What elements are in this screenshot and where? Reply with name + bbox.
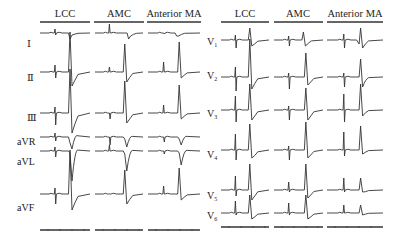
ecg-trace-V5-anterior-ma bbox=[327, 178, 383, 192]
lead-label-V1: V1 bbox=[207, 36, 217, 51]
ecg-trace-I-lcc bbox=[40, 29, 90, 39]
ecg-trace-aVL-anterior-ma bbox=[148, 150, 200, 165]
ecg-trace-II-lcc bbox=[40, 32, 90, 86]
column-header-lcc-left: LCC bbox=[40, 8, 90, 20]
ecg-trace-V6-lcc bbox=[221, 195, 269, 219]
ecg-trace-aVR-anterior-ma bbox=[148, 136, 200, 145]
lead-label-V6: V6 bbox=[207, 210, 217, 225]
ecg-trace-V1-amc bbox=[274, 32, 323, 46]
lead-label-aVL: aVL bbox=[17, 156, 35, 167]
ecg-trace-I-amc bbox=[95, 24, 143, 39]
ecg-trace-III-anterior-ma bbox=[148, 85, 200, 119]
ecg-trace-V2-anterior-ma bbox=[327, 59, 383, 87]
column-header-amc-right: AMC bbox=[273, 8, 323, 20]
lead-label-V3: V3 bbox=[207, 108, 217, 123]
ecg-figure: LCC AMC Anterior MA LCC AMC Anterior MA … bbox=[0, 0, 394, 246]
ecg-trace-aVL-lcc bbox=[40, 147, 90, 181]
lead-label-V2: V2 bbox=[207, 70, 217, 85]
ecg-trace-aVR-lcc bbox=[40, 133, 90, 149]
column-header-amc-left: AMC bbox=[94, 8, 144, 20]
ecg-trace-I-anterior-ma bbox=[148, 32, 200, 36]
lead-label-V5: V5 bbox=[207, 190, 217, 205]
column-header-anterior-ma-left: Anterior MA bbox=[146, 8, 202, 20]
ecg-trace-aVR-amc bbox=[95, 136, 143, 147]
ecg-trace-V3-lcc bbox=[221, 84, 269, 122]
ecg-trace-III-amc bbox=[95, 81, 143, 123]
lead-label-III: Ⅲ bbox=[27, 112, 37, 123]
ecg-trace-aVF-anterior-ma bbox=[148, 168, 200, 200]
ecg-trace-aVL-amc bbox=[95, 145, 143, 171]
ecg-trace-V2-amc bbox=[274, 53, 323, 89]
ecg-trace-aVF-lcc bbox=[40, 150, 90, 210]
ecg-traces bbox=[0, 0, 394, 246]
ecg-trace-V1-lcc bbox=[221, 28, 269, 48]
ecg-trace-II-anterior-ma bbox=[148, 42, 200, 78]
ecg-trace-V4-anterior-ma bbox=[327, 126, 383, 156]
lead-label-aVF: aVF bbox=[17, 202, 34, 213]
ecg-trace-V3-anterior-ma bbox=[327, 84, 383, 122]
lead-label-II: Ⅱ bbox=[27, 72, 34, 83]
column-header-anterior-ma-right: Anterior MA bbox=[326, 8, 384, 20]
column-header-lcc-right: LCC bbox=[220, 8, 270, 20]
lead-label-aVR: aVR bbox=[17, 136, 35, 147]
ecg-trace-V4-amc bbox=[274, 122, 323, 160]
ecg-trace-V1-anterior-ma bbox=[327, 28, 383, 48]
ecg-trace-aVF-amc bbox=[95, 170, 143, 204]
ecg-trace-V6-anterior-ma bbox=[327, 205, 383, 215]
lead-label-V4: V4 bbox=[207, 149, 217, 164]
lead-label-I: Ⅰ bbox=[27, 38, 31, 49]
ecg-trace-III-lcc bbox=[40, 69, 90, 133]
ecg-trace-V6-amc bbox=[274, 195, 323, 219]
ecg-trace-V2-lcc bbox=[221, 39, 269, 91]
ecg-trace-V3-amc bbox=[274, 88, 323, 120]
ecg-trace-V5-amc bbox=[274, 164, 323, 198]
ecg-trace-V4-lcc bbox=[221, 124, 269, 160]
ecg-trace-II-amc bbox=[95, 44, 143, 82]
ecg-trace-V5-lcc bbox=[221, 164, 269, 200]
